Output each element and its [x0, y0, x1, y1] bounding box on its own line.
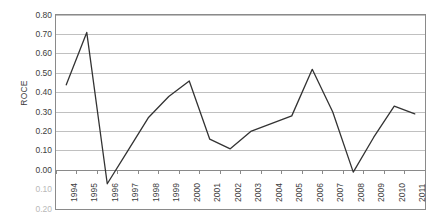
y-tick-label: 0.10: [18, 146, 52, 155]
x-tick-label: 1995: [90, 183, 99, 202]
x-tick-label: 2001: [213, 183, 222, 202]
x-tick-label: 2009: [377, 183, 386, 202]
x-tick-label: 2007: [336, 183, 345, 202]
x-tick-label: 2010: [398, 183, 407, 202]
y-tick-label: 0.50: [18, 69, 52, 78]
x-tick-label: 2008: [357, 183, 366, 202]
y-tick-label: 0.10: [18, 185, 52, 194]
x-tick-label: 2011: [418, 184, 427, 202]
x-tick-label: 1998: [152, 183, 161, 202]
x-tick-label: 1996: [111, 183, 120, 202]
x-tick-label: 1999: [172, 183, 181, 202]
roce-line-chart: ROCE 0.800.700.600.500.400.300.200.100.0…: [0, 0, 435, 224]
x-tick-label: 2004: [275, 183, 284, 202]
y-tick-label: 0.70: [18, 30, 52, 39]
y-tick-label: 0.00: [18, 166, 52, 175]
x-tick-label: 1994: [70, 183, 79, 202]
y-tick-label: 0.20: [18, 127, 52, 136]
x-tick-label: 2005: [295, 183, 304, 202]
x-axis-tick-labels: 1994199519961997199819992000200120022003…: [56, 170, 425, 220]
y-tick-label: 0.80: [18, 11, 52, 20]
x-tick-label: 2000: [193, 183, 202, 202]
y-tick-label: 0.30: [18, 108, 52, 117]
y-tick-label: 0.40: [18, 88, 52, 97]
x-tick-label: 2003: [254, 183, 263, 202]
x-tick-label: 2002: [234, 183, 243, 202]
x-tick-label: 1997: [131, 183, 140, 202]
y-tick-label: 0.20: [18, 205, 52, 214]
y-tick-label: 0.60: [18, 49, 52, 58]
x-tick-label: 2006: [316, 183, 325, 202]
y-axis-tick-labels: 0.800.700.600.500.400.300.200.100.000.10…: [14, 15, 52, 209]
